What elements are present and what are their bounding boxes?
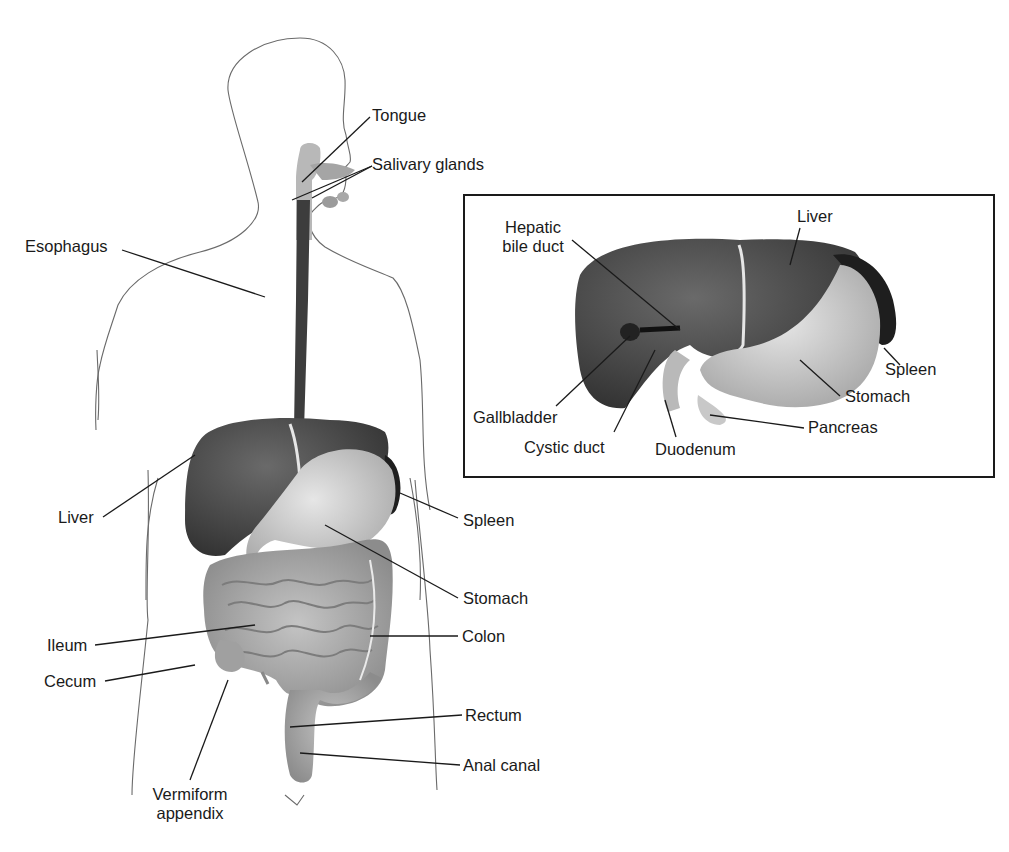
label-vermiform-appendix: Vermiform appendix xyxy=(145,785,235,823)
label-salivary-glands: Salivary glands xyxy=(372,155,484,174)
label-liver: Liver xyxy=(58,508,94,527)
label-tongue: Tongue xyxy=(372,106,426,125)
inset-label-stomach: Stomach xyxy=(845,387,910,406)
inset-label-liver: Liver xyxy=(797,207,833,226)
inset-label-duodenum: Duodenum xyxy=(655,440,736,459)
inset-label-cystic-duct: Cystic duct xyxy=(524,438,605,457)
intestines-shape xyxy=(203,539,392,782)
label-vermiform-line2: appendix xyxy=(145,804,235,823)
inset-label-spleen: Spleen xyxy=(885,360,936,379)
label-ileum: Ileum xyxy=(47,636,87,655)
inset-label-gallbladder: Gallbladder xyxy=(473,408,557,427)
inset-label-hepatic-bile-duct: Hepatic bile duct xyxy=(488,218,578,256)
label-vermiform-line1: Vermiform xyxy=(145,785,235,804)
label-anal-canal: Anal canal xyxy=(463,756,540,775)
label-cecum: Cecum xyxy=(44,672,96,691)
label-rectum: Rectum xyxy=(465,706,522,725)
inset-label-pancreas: Pancreas xyxy=(808,418,878,437)
inset-label-hepatic-line2: bile duct xyxy=(488,237,578,256)
label-stomach: Stomach xyxy=(463,589,528,608)
label-spleen: Spleen xyxy=(463,511,514,530)
label-esophagus: Esophagus xyxy=(25,237,108,256)
label-colon: Colon xyxy=(462,627,505,646)
inset-label-hepatic-line1: Hepatic xyxy=(488,218,578,237)
